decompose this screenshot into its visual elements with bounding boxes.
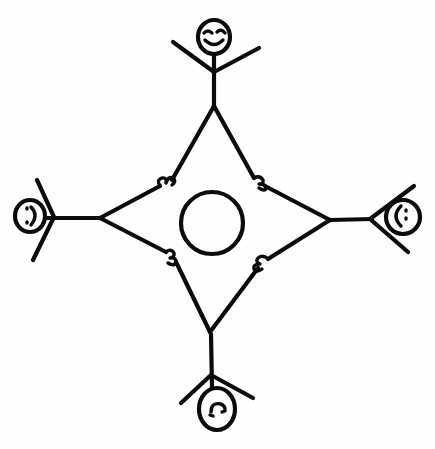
- right-figure-smile: [396, 206, 401, 226]
- center-circle: [181, 192, 243, 254]
- right-upper-arm: [265, 186, 330, 220]
- hand-join-lower-right: [254, 256, 268, 271]
- bottom-figure-body: [211, 334, 212, 388]
- bottom-figure-head: [199, 388, 235, 430]
- bottom-left-leg: [176, 262, 210, 332]
- bottom-stick-figure: [181, 334, 253, 430]
- top-left-leg: [172, 106, 214, 180]
- left-figure-head: [15, 200, 45, 232]
- star-ring: [100, 106, 330, 332]
- left-stick-figure: [15, 180, 100, 260]
- bottom-right-leg: [210, 268, 258, 332]
- right-lower-arm: [268, 220, 330, 259]
- top-figure-head: [198, 20, 230, 54]
- top-figure-eyes: [204, 30, 225, 33]
- top-figure-smile: [205, 40, 223, 45]
- top-right-leg: [214, 106, 254, 178]
- hand-join-upper-right: [254, 177, 266, 190]
- hand-join-lower-left: [166, 250, 176, 265]
- left-upper-arm: [100, 186, 160, 218]
- top-stick-figure: [173, 20, 259, 106]
- left-lower-arm: [100, 218, 166, 252]
- left-figure-smile: [31, 207, 35, 225]
- right-stick-figure: [330, 186, 420, 252]
- right-figure-body: [330, 219, 372, 220]
- drawing-svg: [0, 0, 435, 449]
- stick-figure-illustration: Hand-drawn stick figure drawing: four st…: [0, 0, 435, 449]
